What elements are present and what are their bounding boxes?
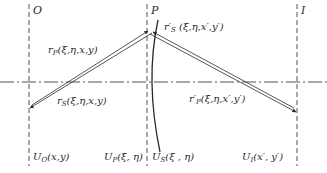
rS-label: rS(ξ,η,x,y): [57, 95, 107, 108]
image-field-label: UI(x′, y′): [242, 151, 283, 164]
surface-field-label: US(ξ , η): [152, 151, 194, 164]
ray-rP: [32, 31, 148, 105]
reference-surface-curve: [152, 20, 160, 152]
pupil-plane-label: P: [150, 4, 159, 17]
image-plane-label: I: [300, 4, 306, 17]
rP-label: rP(ξ,η,x,y): [48, 44, 98, 57]
rS-prime-label: r′S (ξ,η,x′,y′): [164, 21, 224, 34]
pupil-field-label: UP(ξ, η): [104, 151, 143, 164]
rP-prime-label: r′P(ξ,η,x′,y′): [189, 93, 246, 106]
object-plane-label: O: [33, 4, 42, 17]
optical-diagram: O P I rP(ξ,η,x,y) rS(ξ,η,x,y) r′S (ξ,η,x…: [0, 0, 327, 173]
object-field-label: UO(x,y): [33, 151, 70, 164]
